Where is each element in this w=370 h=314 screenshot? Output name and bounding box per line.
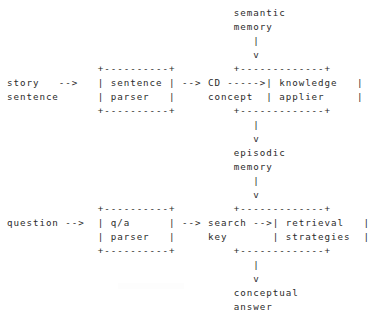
- ascii-art-diagram: semantic memory | v +----------+ +------…: [7, 6, 370, 314]
